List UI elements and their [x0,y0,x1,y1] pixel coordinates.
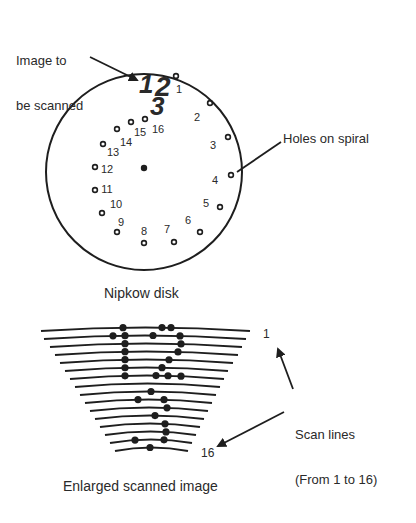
spiral-hole [142,241,147,246]
scan-dot [176,332,183,339]
spiral-hole [93,188,98,193]
spiral-hole [174,74,179,79]
holes-on-spiral-label: Holes on spiral [283,131,369,146]
scan-dot [161,420,168,427]
scan-line [55,352,238,356]
spiral-hole [93,165,98,170]
hole-number-label: 8 [141,225,147,237]
scan-dot [152,372,159,379]
image-label-line-1: Image to [16,53,83,68]
scan-line [60,360,233,364]
scan-dot [158,324,165,331]
hole-number-label: 16 [152,123,164,135]
image-to-be-scanned: 1 2 3 [139,69,171,121]
spiral-hole [226,135,231,140]
hole-number-label: 11 [101,183,112,195]
hole-number-label: 10 [110,198,122,210]
scan-dot [174,348,181,355]
hole-number-label: 13 [107,146,119,158]
nipkow-disk-diagram: 12345678910111213141516 1 2 3 1 16 Image… [0,0,416,523]
hole-number-label: 9 [118,216,124,228]
image-arrow [90,57,137,80]
scan-dot [121,332,128,339]
scan-dot [131,436,138,443]
scan-line [50,344,242,348]
enlarged-scanned-image-caption: Enlarged scanned image [63,478,218,494]
scan-dot [151,412,158,419]
spiral-hole [100,211,105,216]
scan-dot [162,428,169,435]
scan-dot [147,388,154,395]
hole-number-label: 15 [134,126,146,138]
scan-dot [158,364,165,371]
hole-number-label: 2 [194,111,200,123]
scan-line [65,368,228,372]
scanned-glyph-3: 3 [150,91,165,121]
image-to-be-scanned-label: Image to be scanned [16,23,83,143]
scan-line-1-arrow [278,349,293,389]
scan-line-16-number: 16 [201,446,215,460]
holes-pointer-line [237,142,281,172]
hole-number-label: 12 [101,163,113,175]
scan-dot [160,436,167,443]
scan-dot [165,356,172,363]
scan-line [105,432,196,436]
scan-lines-label: Scan lines (From 1 to 16) [295,397,377,517]
scan-line-1-number: 1 [263,327,270,341]
hole-number-label: 7 [164,223,170,235]
scan-dot [160,396,167,403]
spiral-hole [172,240,177,245]
disk-center-hole [141,165,147,171]
scan-line [70,376,224,380]
scan-line [100,424,200,428]
spiral-hole [218,205,223,210]
spiral-hole [229,173,234,178]
scan-dot [109,332,116,339]
scan-line [95,416,204,420]
scan-line [110,440,192,444]
scan-dot [167,324,174,331]
spiral-hole [208,101,213,106]
image-label-line-2: be scanned [16,98,83,113]
scan-dot [119,324,126,331]
scan-dot [134,396,141,403]
hole-number-label: 14 [120,136,132,148]
scan-dot [163,404,170,411]
scan-dot [146,444,153,451]
spiral-hole [115,230,120,235]
hole-number-label: 6 [185,214,191,226]
scan-dot [121,356,128,363]
spiral-hole [129,120,134,125]
scan-dot [121,348,128,355]
spiral-hole [198,230,203,235]
scan-line [44,336,246,340]
spiral-hole [143,117,148,122]
scan-line [85,400,212,404]
scan-dot [121,340,128,347]
scan-lines-label-line-2: (From 1 to 16) [295,472,377,487]
nipkow-disk-caption: Nipkow disk [104,285,179,301]
scan-line [75,384,220,388]
scan-dot [149,332,156,339]
scan-line-16-arrow [218,412,284,446]
hole-number-label: 1 [176,83,182,95]
scan-line [90,408,208,412]
hole-number-label: 4 [212,174,218,186]
scan-dot [121,364,128,371]
spiral-hole [115,127,120,132]
scan-line [41,328,250,332]
scan-dot [121,372,128,379]
scan-dot [164,372,171,379]
scan-dot [177,373,184,380]
spiral-hole [101,142,106,147]
scan-lines-label-line-1: Scan lines [295,427,377,442]
hole-number-label: 5 [203,197,209,209]
hole-number-label: 3 [210,139,216,151]
enlarged-scan-lines [41,328,250,452]
scan-dot [177,340,184,347]
